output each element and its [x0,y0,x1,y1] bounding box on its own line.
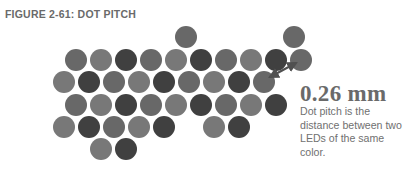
led-dot [175,26,197,48]
led-dot [78,71,100,93]
led-dot [115,49,137,71]
led-dot [140,49,162,71]
led-dot [203,71,225,93]
led-dot [290,49,312,71]
led-dot [215,94,237,116]
led-dot [215,49,237,71]
led-dot [53,116,75,138]
led-dots [53,26,312,160]
led-dot [128,71,150,93]
led-dot [190,49,212,71]
led-dot [203,116,225,138]
led-dot [283,26,305,48]
led-dot [240,94,262,116]
led-dot [190,94,212,116]
led-dot [115,94,137,116]
led-dot [103,71,125,93]
led-dot [240,49,262,71]
led-dot [103,116,125,138]
led-dot [153,116,175,138]
led-dot [90,138,112,160]
led-dot [165,94,187,116]
led-dot [228,116,250,138]
dot-pitch-value: 0.26 mm [300,81,386,107]
led-dot [265,49,287,71]
led-dot [128,116,150,138]
led-dot [53,71,75,93]
led-dot [65,49,87,71]
led-dot [253,71,275,93]
led-dot [90,94,112,116]
led-dot [78,116,100,138]
led-dot [90,49,112,71]
led-dot [178,71,200,93]
led-dot [228,71,250,93]
dot-pitch-description: Dot pitch is the distance between two LE… [300,105,412,159]
led-dot [265,94,287,116]
led-dot [140,94,162,116]
led-dot [65,94,87,116]
led-dot [115,138,137,160]
led-dot [153,71,175,93]
led-dot [165,49,187,71]
